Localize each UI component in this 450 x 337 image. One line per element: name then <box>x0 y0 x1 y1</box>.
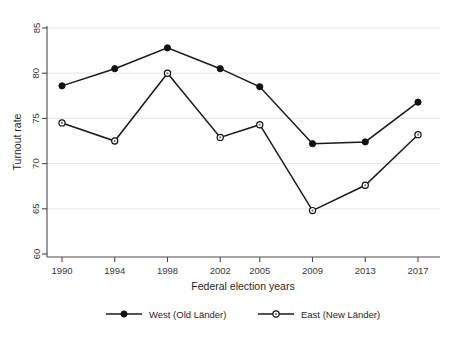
x-tick-label-1998: 1998 <box>157 265 178 276</box>
data-point-center-east-1998 <box>166 72 168 74</box>
x-tick-label-2017: 2017 <box>407 265 428 276</box>
y-tick-label-85: 85 <box>31 23 42 34</box>
data-point-center-east-2013 <box>364 184 366 186</box>
legend-marker-east-center <box>275 313 277 315</box>
x-tick-label-2013: 2013 <box>355 265 376 276</box>
y-tick-label-65: 65 <box>31 204 42 215</box>
x-tick-label-2005: 2005 <box>249 265 270 276</box>
y-tick-label-80: 80 <box>31 68 42 79</box>
x-axis-title: Federal election years <box>191 280 294 292</box>
legend-label-east: East (New Länder) <box>301 309 380 320</box>
data-point-center-east-2002 <box>219 136 221 138</box>
data-point-west-2013 <box>362 139 368 145</box>
y-tick-label-60: 60 <box>31 249 42 260</box>
data-point-center-east-1994 <box>114 140 116 142</box>
y-tick-label-70: 70 <box>31 158 42 169</box>
data-point-west-2009 <box>309 141 315 147</box>
data-point-west-2017 <box>415 99 421 105</box>
y-tick-label-75: 75 <box>31 113 42 124</box>
x-tick-label-1990: 1990 <box>51 265 72 276</box>
data-point-center-east-2017 <box>417 134 419 136</box>
data-point-west-1994 <box>112 66 118 72</box>
data-point-west-2005 <box>257 84 263 90</box>
x-tick-label-2002: 2002 <box>210 265 231 276</box>
turnout-rate-line-chart: 606570758085 199019941998200220052009201… <box>0 0 450 337</box>
y-axis-title: Turnout rate <box>11 113 23 170</box>
data-point-west-1998 <box>164 45 170 51</box>
x-tick-label-1994: 1994 <box>104 265 125 276</box>
chart-container: 606570758085 199019941998200220052009201… <box>0 0 450 337</box>
legend-label-west: West (Old Länder) <box>149 309 226 320</box>
legend-marker-west <box>121 311 127 317</box>
data-point-center-east-2009 <box>311 210 313 212</box>
data-point-west-2002 <box>217 66 223 72</box>
x-tick-label-2009: 2009 <box>302 265 323 276</box>
data-point-west-1990 <box>59 83 65 89</box>
data-point-center-east-1990 <box>61 122 63 124</box>
data-point-center-east-2005 <box>259 124 261 126</box>
